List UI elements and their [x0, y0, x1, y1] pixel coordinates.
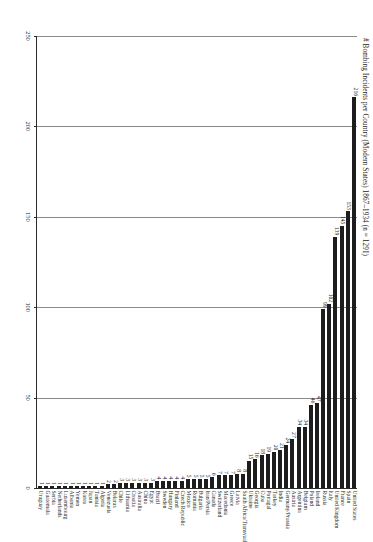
bar-value-label: 3: [119, 478, 125, 481]
bar: [290, 439, 294, 488]
bar-value-label: 216: [353, 88, 359, 96]
bar-row: 5Mexico: [185, 36, 191, 488]
category-label: Portugal: [266, 491, 272, 510]
bar-value-label: 5: [199, 475, 205, 478]
bar-value-label: 4: [174, 476, 180, 479]
bar-value-label: 20: [273, 445, 279, 451]
bar-row: 2Venezuela: [105, 36, 111, 488]
category-label: Croatia: [131, 491, 137, 507]
bar-value-label: 4: [162, 476, 168, 479]
bar: [57, 486, 61, 488]
bar-row: 7Greece: [228, 36, 234, 488]
bar-value-label: 8: [236, 469, 242, 472]
bar-value-label: 3: [150, 478, 156, 481]
category-label: Belgium: [303, 491, 309, 510]
bar: [173, 481, 177, 488]
category-label: Spain: [346, 491, 352, 504]
bar-value-label: 1: [51, 482, 57, 485]
bar-value-label: 7: [230, 471, 236, 474]
value-axis-line: [36, 36, 37, 488]
category-label: Italy: [328, 491, 334, 501]
category-label: Luxembourg: [63, 491, 69, 520]
axis-tick: [34, 488, 37, 489]
category-label: China: [143, 491, 149, 504]
bar-row: 1Yemen: [74, 36, 80, 488]
bar-row: 3Australia: [135, 36, 141, 488]
bar: [284, 445, 288, 488]
category-label: Iran/Persia: [205, 491, 211, 515]
bar-row: 3China: [142, 36, 148, 488]
bar: [229, 475, 233, 488]
bar-row: 4Hungary: [166, 36, 172, 488]
category-label: Switzerland: [217, 491, 223, 518]
bar-row: 1Korea: [80, 36, 86, 488]
bar-row: 6Canada: [209, 36, 215, 488]
bar-value-label: 102: [328, 294, 334, 302]
bar-row: 47Ireland: [314, 36, 320, 488]
axis-tick: [34, 126, 37, 127]
bar-value-label: 7: [223, 471, 229, 474]
bar-value-label: 34: [297, 419, 303, 425]
category-label: Finland: [174, 491, 180, 508]
bar-value-label: 3: [137, 478, 143, 481]
bar: [321, 309, 325, 488]
bar-row: 7Macedonia: [222, 36, 228, 488]
category-label: Mexico: [186, 491, 192, 508]
bar-row: 18Cuba: [259, 36, 265, 488]
category-label: Algeria: [100, 491, 106, 508]
category-label: Ukraine: [248, 491, 254, 509]
bar-value-label: 145: [340, 216, 346, 224]
bar-row: 16Georgia: [252, 36, 258, 488]
bar: [93, 486, 97, 488]
bar-value-label: 5: [186, 475, 192, 478]
axis-tick-label: 150: [25, 212, 32, 222]
bar-value-label: 18: [260, 448, 266, 454]
category-label: Russia: [322, 491, 328, 506]
bar: [161, 481, 165, 488]
bar: [100, 486, 104, 488]
bar: [204, 479, 208, 488]
bar-value-label: 1: [63, 482, 69, 485]
bar-value-label: 1: [39, 482, 45, 485]
bar: [137, 483, 141, 488]
bar-row: 5Romania: [191, 36, 197, 488]
category-label: Japan: [88, 491, 94, 504]
category-label: Poland: [309, 491, 315, 507]
category-label: Serbia: [51, 491, 57, 505]
bar-row: 2Belarus: [111, 36, 117, 488]
bar-value-label: 1: [100, 482, 106, 485]
bar: [352, 97, 356, 488]
category-label: Latvia: [235, 491, 241, 505]
bar-value-label: 1: [76, 482, 82, 485]
category-label: Austria: [291, 491, 297, 507]
category-label: Guatemala: [45, 491, 51, 515]
bar-value-label: 46: [310, 398, 316, 404]
bar: [50, 486, 54, 488]
bar: [241, 474, 245, 488]
bar-row: 4Czech Republic: [179, 36, 185, 488]
bar: [130, 483, 134, 488]
bar-row: 139United Kingdom: [332, 36, 338, 488]
bar-row: 4Sweden: [160, 36, 166, 488]
bar: [63, 486, 67, 488]
category-label: Korea: [82, 491, 88, 505]
bar: [167, 481, 171, 488]
plot-area: 216United States153Spain145France139Unit…: [37, 36, 357, 488]
category-label: Turkey: [272, 491, 278, 507]
bar: [143, 483, 147, 488]
bar: [223, 475, 227, 488]
bar-value-label: 4: [168, 476, 174, 479]
bar: [198, 479, 202, 488]
bar-value-label: 1: [57, 482, 63, 485]
bar-value-label: 1: [45, 482, 51, 485]
bar-row: 145France: [339, 36, 345, 488]
bar-value-label: 8: [242, 469, 248, 472]
bars-layer: 216United States153Spain145France139Unit…: [37, 36, 357, 488]
bar: [180, 481, 184, 488]
bar-row: 19Portugal: [265, 36, 271, 488]
bar-row: 27Austria: [289, 36, 295, 488]
bar-row: 1Luxembourg: [62, 36, 68, 488]
bar: [69, 486, 73, 488]
